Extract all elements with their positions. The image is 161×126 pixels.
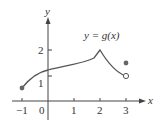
y-ticks <box>48 50 52 76</box>
x-tick-label: 2 <box>97 104 103 116</box>
function-label: y = g(x) <box>83 29 120 42</box>
y-tick-label: 1 <box>38 77 44 89</box>
y-axis-label: y <box>44 5 50 17</box>
x-tick-label: 3 <box>123 104 129 116</box>
filled-endpoint-marker <box>20 86 25 91</box>
filled-point-marker <box>124 61 129 66</box>
x-tick-label: −1 <box>16 104 28 116</box>
y-axis-arrow-icon <box>46 17 51 24</box>
function-graph: x y −1 0 1 2 3 1 2 y = g(x) <box>0 0 161 126</box>
open-endpoint-marker <box>123 73 128 78</box>
y-tick-label: 2 <box>38 44 44 56</box>
x-tick-label: 1 <box>71 104 77 116</box>
x-tick-label: 0 <box>39 104 45 116</box>
x-axis-arrow-icon <box>139 99 146 104</box>
x-axis-label: x <box>147 94 153 106</box>
